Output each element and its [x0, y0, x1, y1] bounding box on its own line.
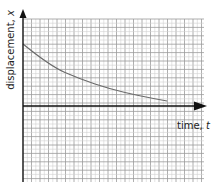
y-axis-variable: x — [5, 10, 16, 16]
x-axis-label: time, t — [177, 120, 210, 131]
displacement-time-chart — [0, 0, 211, 192]
x-axis-variable: t — [206, 120, 210, 131]
x-axis-label-text: time, — [177, 120, 206, 131]
y-axis-arrow-icon — [20, 9, 27, 18]
graph-paper-grid — [23, 19, 204, 182]
y-axis-label: displacement, x — [5, 10, 16, 90]
y-axis-label-text: displacement, — [5, 16, 16, 90]
